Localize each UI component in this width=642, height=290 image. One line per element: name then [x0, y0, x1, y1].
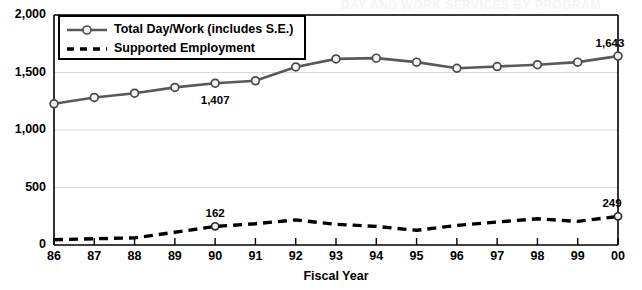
x-tick-marks	[54, 238, 618, 245]
legend-swatch-dashed	[66, 42, 108, 56]
data-point-label: 1,407	[194, 94, 236, 106]
data-point-label: 1,643	[589, 37, 631, 49]
y-tick-label: 500	[2, 180, 46, 194]
legend-item-total-day-work: Total Day/Work (includes S.E.)	[66, 20, 298, 39]
x-tick-label: 88	[120, 249, 150, 263]
data-point-label: 162	[194, 207, 236, 219]
chart-legend: Total Day/Work (includes S.E.) Supported…	[58, 15, 306, 60]
legend-swatch-solid-marker	[66, 23, 108, 37]
data-point-label: 249	[591, 197, 633, 209]
x-tick-label: 87	[79, 249, 109, 263]
legend-label-total-day-work: Total Day/Work (includes S.E.)	[114, 23, 293, 36]
series-total-day-work-markers	[50, 52, 622, 108]
y-tick-label: 1,500	[2, 65, 46, 79]
legend-label-supported-employment: Supported Employment	[114, 42, 255, 55]
y-tick-label: 1,000	[2, 122, 46, 136]
x-tick-label: 00	[603, 249, 633, 263]
x-tick-label: 92	[281, 249, 311, 263]
x-tick-label: 86	[39, 249, 69, 263]
x-tick-label: 93	[321, 249, 351, 263]
x-tick-label: 89	[160, 249, 190, 263]
x-tick-label: 96	[442, 249, 472, 263]
x-tick-label: 97	[482, 249, 512, 263]
x-tick-label: 94	[361, 249, 391, 263]
series-supported-employment	[54, 216, 618, 239]
series-supported-employment-markers	[212, 213, 622, 230]
x-tick-label: 95	[402, 249, 432, 263]
x-tick-label: 99	[563, 249, 593, 263]
x-tick-label: 91	[240, 249, 270, 263]
legend-item-supported-employment: Supported Employment	[66, 39, 298, 58]
x-tick-label: 98	[522, 249, 552, 263]
y-tick-label: 2,000	[2, 7, 46, 21]
x-axis-title: Fiscal Year	[276, 269, 396, 283]
x-tick-label: 90	[200, 249, 230, 263]
chart-container: DAY AND WORK SERVICES BY PROGRAM 05001,0…	[0, 0, 642, 290]
